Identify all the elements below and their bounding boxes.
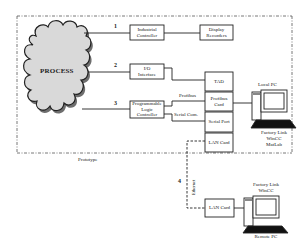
lan-card-local-label: LAN Card	[205, 133, 233, 152]
lan-card-remote-label: LAN Card	[205, 199, 234, 217]
link-number-4: 4	[178, 178, 181, 184]
io-interface-label: I/O Interface	[130, 64, 164, 79]
system-architecture-diagram: PROCESS 1 2 3 4 Industrial Controller Di…	[0, 0, 308, 246]
serial-com-connection-label: Serial Com.	[174, 112, 198, 118]
local-pc-title: Local PC	[258, 82, 277, 88]
remote-pc-title: Remote PC	[248, 234, 284, 240]
link-number-3: 3	[114, 100, 117, 106]
ethernet-connection-label: Ethernet	[191, 180, 196, 195]
plc-label: Programmable Logic Controller	[130, 101, 164, 118]
industrial-controller-label: Industrial Controller	[130, 25, 164, 40]
profibus-connection-label: Profibus	[179, 93, 196, 99]
link-number-2: 2	[114, 62, 117, 68]
tad-label: TAD	[205, 72, 233, 91]
remote-pc-icon	[243, 196, 288, 233]
ethernet-link	[187, 141, 205, 208]
process-label: PROCESS	[40, 67, 74, 75]
display-recorders-label: Display Recorders	[200, 25, 233, 40]
serial-port-label: Serial Port	[205, 112, 233, 132]
prototype-label: Prototype	[78, 157, 97, 163]
link-number-1: 1	[114, 23, 117, 29]
local-pc-icon	[251, 90, 296, 128]
profibus-card-label: Profibus Card	[205, 92, 233, 111]
remote-pc-software-2: WinCC	[248, 188, 284, 194]
local-pc-software-3: MatLab	[256, 142, 292, 148]
